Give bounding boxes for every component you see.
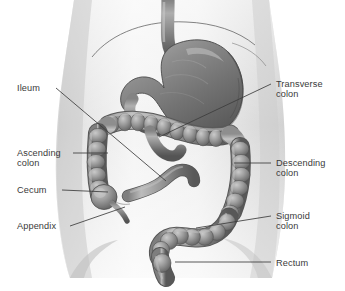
label-rectum: Rectum — [276, 258, 308, 268]
label-descending-colon: Descending colon — [276, 158, 326, 179]
label-appendix: Appendix — [17, 221, 56, 231]
label-ascending-colon: Ascending colon — [17, 148, 61, 169]
anatomy-illustration — [0, 0, 345, 291]
label-sigmoid-colon: Sigmoid colon — [276, 211, 310, 232]
label-cecum: Cecum — [17, 185, 47, 195]
label-transverse-colon: Transverse colon — [276, 79, 323, 100]
anatomy-figure: Ileum Ascending colon Cecum Appendix Tra… — [0, 0, 345, 291]
rectum — [153, 254, 171, 278]
label-ileum: Ileum — [17, 83, 40, 93]
